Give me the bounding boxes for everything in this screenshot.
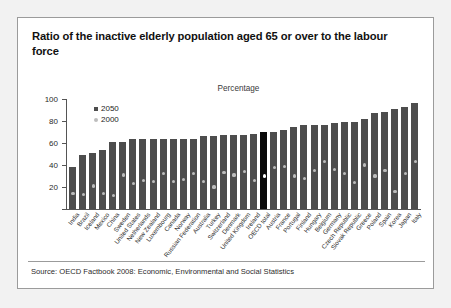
bar-slot xyxy=(229,99,239,209)
marker-2000 xyxy=(92,184,95,187)
bar-slot xyxy=(78,99,88,209)
footer-divider xyxy=(28,261,425,262)
bar-2050 xyxy=(411,103,418,209)
bar-slot xyxy=(199,99,209,209)
y-axis-tick: 60 xyxy=(62,143,67,144)
bar-slot xyxy=(289,99,299,209)
bar-slot xyxy=(68,99,78,209)
bar-slot xyxy=(88,99,98,209)
bar-2050 xyxy=(69,167,76,209)
marker-2000 xyxy=(293,174,296,177)
source-note: Source: OECD Factbook 2008: Economic, En… xyxy=(31,267,294,276)
bar-2050 xyxy=(391,109,398,209)
y-axis-tick-label: 100 xyxy=(45,95,58,104)
bar-slot xyxy=(410,99,420,209)
page-title: Ratio of the inactive elderly population… xyxy=(32,29,402,58)
chart-card: Ratio of the inactive elderly population… xyxy=(17,17,434,289)
bar-slot xyxy=(118,99,128,209)
marker-2000 xyxy=(273,166,276,169)
y-axis-tick: 100 xyxy=(62,99,67,100)
bar-2050 xyxy=(381,112,388,209)
marker-2000 xyxy=(303,177,306,180)
y-axis-tick-label: 40 xyxy=(49,161,58,170)
marker-2000 xyxy=(243,170,246,173)
bar-slot xyxy=(269,99,279,209)
marker-2000 xyxy=(283,165,286,168)
marker-2000 xyxy=(142,179,145,182)
marker-2000 xyxy=(253,179,256,182)
x-axis-labels: IndiaBrazilIcelandMexicoChinaSwedenUnite… xyxy=(68,211,420,267)
bar-slot xyxy=(128,99,138,209)
y-axis-tick: 80 xyxy=(62,121,67,122)
y-axis-tick-label: 60 xyxy=(49,139,58,148)
chart-page: Ratio of the inactive elderly population… xyxy=(0,0,451,308)
bar-slot xyxy=(320,99,330,209)
chart-subtitle: Percentage xyxy=(18,84,435,93)
marker-2000 xyxy=(71,192,74,195)
bar-slot xyxy=(189,99,199,209)
y-axis-tick-label: 20 xyxy=(49,183,58,192)
y-axis-tick: 20 xyxy=(62,187,67,188)
y-axis-tick-label: 80 xyxy=(49,117,58,126)
marker-2000 xyxy=(263,174,266,177)
bar-slot xyxy=(299,99,309,209)
bar-slot xyxy=(400,99,410,209)
y-axis-tick xyxy=(62,209,67,210)
y-axis xyxy=(66,99,67,210)
y-axis-tick: 40 xyxy=(62,165,67,166)
bar-slot xyxy=(108,99,118,209)
marker-2000 xyxy=(122,173,125,176)
bar-slot xyxy=(390,99,400,209)
bar-slot xyxy=(380,99,390,209)
marker-2000 xyxy=(102,192,105,195)
marker-2000 xyxy=(82,193,85,196)
bar-2050 xyxy=(401,107,408,209)
marker-2000 xyxy=(383,169,386,172)
marker-2000 xyxy=(393,190,396,193)
bar-slot xyxy=(98,99,108,209)
